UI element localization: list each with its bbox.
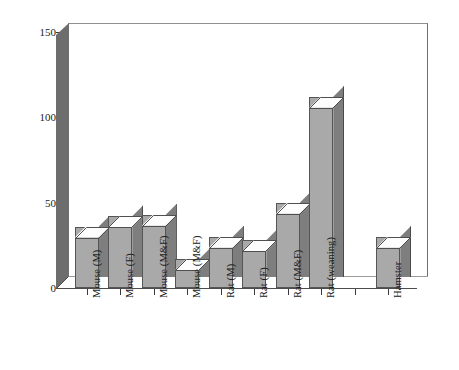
x-tick-label: Mouse (M&F) bbox=[191, 235, 202, 298]
y-axis-ticks: 050100150 bbox=[12, 0, 56, 370]
bar-chart-figure: mg/kg body weight 050100150 Mouse (M)Mou… bbox=[0, 0, 459, 370]
y-axis-wall bbox=[56, 23, 69, 289]
plot-area bbox=[56, 23, 428, 289]
x-tick-label: Mouse (M) bbox=[91, 250, 102, 298]
x-tick-label: Rat (weaning) bbox=[325, 237, 336, 298]
y-tick-label: 100 bbox=[30, 112, 56, 122]
x-tick-label: Hamster bbox=[392, 262, 403, 298]
x-tick-mark bbox=[87, 289, 88, 295]
y-tick-label: 150 bbox=[30, 27, 56, 37]
floor-left-edge bbox=[56, 276, 69, 289]
bar-top-outline bbox=[309, 97, 344, 109]
x-tick-label: Mouse (M&F) bbox=[158, 235, 169, 298]
x-tick-label: Mouse (F) bbox=[124, 253, 135, 298]
x-tick-mark bbox=[120, 289, 121, 295]
y-tick-label: 0 bbox=[30, 283, 56, 293]
bar-top-outline bbox=[376, 237, 411, 249]
x-tick-mark bbox=[221, 289, 222, 295]
bar-top-outline bbox=[75, 227, 110, 239]
bar-top-outline bbox=[142, 215, 177, 227]
x-tick-mark bbox=[254, 289, 255, 295]
x-tick-mark bbox=[388, 289, 389, 295]
bar-top-outline bbox=[276, 203, 311, 215]
x-tick-label: Rat (M&F) bbox=[292, 250, 303, 298]
x-tick-mark bbox=[321, 289, 322, 295]
y-tick-label: 50 bbox=[30, 198, 56, 208]
x-tick-mark bbox=[355, 289, 356, 295]
x-tick-mark bbox=[288, 289, 289, 295]
bar-top-outline bbox=[108, 216, 143, 228]
bar-top-outline bbox=[242, 240, 277, 252]
x-tick-mark bbox=[154, 289, 155, 295]
x-tick-label: Rat (F) bbox=[258, 267, 269, 298]
bar-top-outline bbox=[209, 237, 244, 249]
x-tick-label: Rat (M) bbox=[225, 264, 236, 298]
floor-front-edge bbox=[56, 288, 417, 289]
x-tick-mark bbox=[187, 289, 188, 295]
